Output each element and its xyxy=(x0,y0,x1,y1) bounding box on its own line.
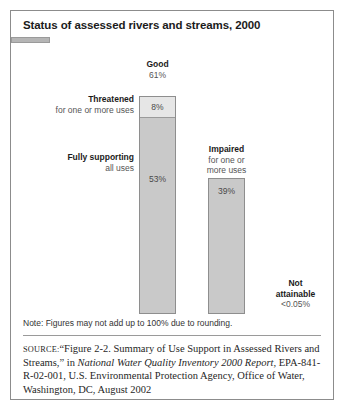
bar-good: 8% 53% xyxy=(139,96,176,314)
bar-segment-fully-supporting: 53% xyxy=(140,118,175,313)
label-impaired: Impaired for one or more uses xyxy=(196,144,257,176)
bar-segment-fully-supporting-value: 53% xyxy=(140,174,175,184)
figure-note: Note: Figures may not add up to 100% due… xyxy=(23,318,232,328)
figure-source: SOURCE:“Figure 2-2. Summary of Use Suppo… xyxy=(23,342,323,396)
bar-not-attainable xyxy=(11,37,50,43)
label-threatened-sub: for one or more uses xyxy=(56,105,134,115)
figure-title: Status of assessed rivers and streams, 2… xyxy=(23,19,260,31)
label-impaired-heading: Impaired xyxy=(196,144,257,155)
label-fully-supporting-heading: Fully supporting xyxy=(19,152,134,163)
label-good: Good 61% xyxy=(129,59,186,80)
label-not-attainable: Not attainable <0.05% xyxy=(265,278,326,310)
source-publication-title: National Water Quality Inventory 2000 Re… xyxy=(78,357,277,368)
label-good-value: 61% xyxy=(149,70,166,80)
bar-segment-threatened: 8% xyxy=(140,97,175,118)
label-fully-supporting-sub: all uses xyxy=(105,163,134,173)
bar-impaired: 39% xyxy=(208,178,245,314)
bar-impaired-value: 39% xyxy=(209,186,244,196)
label-fully-supporting: Fully supporting all uses xyxy=(19,152,134,173)
bar-segment-threatened-value: 8% xyxy=(140,102,175,112)
label-not-attainable-heading-line2: attainable xyxy=(265,289,326,300)
label-impaired-sub-line1: for one or xyxy=(208,155,244,165)
label-impaired-sub-line2: more uses xyxy=(207,165,247,175)
figure-frame: Status of assessed rivers and streams, 2… xyxy=(10,10,334,400)
label-not-attainable-value: <0.05% xyxy=(265,299,326,310)
section-divider xyxy=(23,335,321,336)
label-threatened-heading: Threatened xyxy=(19,94,134,105)
source-label: SOURCE: xyxy=(23,345,59,354)
chart-plot-area: Good 61% Threatened for one or more uses… xyxy=(11,37,333,305)
label-not-attainable-heading-line1: Not xyxy=(265,278,326,289)
label-threatened: Threatened for one or more uses xyxy=(19,94,134,115)
label-good-heading: Good xyxy=(129,59,186,70)
